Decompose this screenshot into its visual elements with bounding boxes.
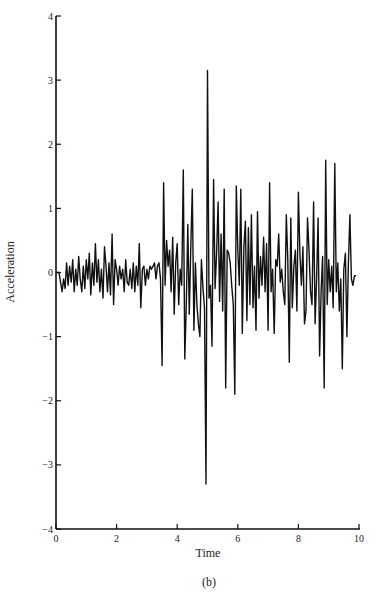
x-tick-label: 2	[114, 533, 119, 544]
x-tick-label: 10	[354, 533, 364, 544]
y-axis-title: Acceleration	[3, 241, 17, 302]
x-tick-label: 4	[175, 533, 180, 544]
x-tick-label: 6	[235, 533, 240, 544]
y-tick-label: 0	[48, 267, 53, 278]
y-tick-label: −3	[42, 459, 53, 470]
x-axis-title: Time	[196, 546, 221, 560]
x-ticks: 0246810	[54, 524, 365, 544]
figure-caption: (b)	[0, 575, 378, 590]
caption-label: (b)	[202, 575, 216, 589]
y-tick-label: 1	[48, 203, 53, 214]
y-tick-label: 4	[48, 11, 53, 22]
x-tick-label: 8	[296, 533, 301, 544]
chart: −4−3−2−101234 0246810 Time Acceleration	[0, 0, 378, 603]
x-tick-label: 0	[54, 533, 59, 544]
y-tick-label: 3	[48, 75, 53, 86]
y-tick-label: −1	[42, 331, 53, 342]
y-tick-label: −2	[42, 395, 53, 406]
y-tick-label: −4	[42, 524, 53, 535]
y-tick-label: 2	[48, 139, 53, 150]
acceleration-line	[56, 71, 356, 485]
